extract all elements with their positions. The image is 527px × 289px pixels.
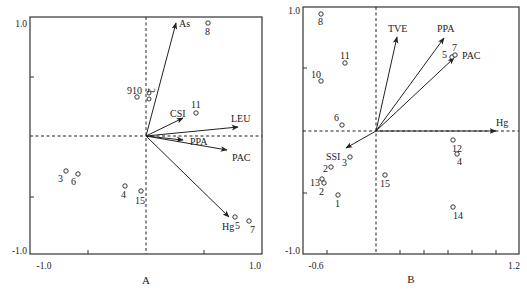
point-10-label: 10 <box>311 69 321 80</box>
panel-a-x-max-label: 1.0 <box>249 261 261 271</box>
point-15 <box>139 189 143 193</box>
point-4 <box>123 184 127 188</box>
point-4-label: 4 <box>121 189 126 200</box>
panel-b-y-min-label: -1.0 <box>285 246 300 256</box>
point-7-label: 7 <box>452 42 457 53</box>
point-15-label: 15 <box>135 195 145 206</box>
point-3 <box>348 155 352 159</box>
point-14 <box>451 205 455 209</box>
panel-b-x-min-label: -0.6 <box>308 261 323 271</box>
vector-leu-label: LEU <box>231 113 251 124</box>
vector-as-label: As <box>179 18 190 29</box>
point-6-label: 6 <box>334 112 339 123</box>
point-2b <box>322 181 326 185</box>
point-910-label: 910 <box>127 85 142 96</box>
point-12 <box>451 138 455 142</box>
vector-ssi-arrow <box>346 131 376 148</box>
point-2b-label: 2 <box>319 186 324 197</box>
point-2a <box>329 165 333 169</box>
panel-a-y-min-label: -1.0 <box>12 246 27 256</box>
point-4-label: 4 <box>457 156 462 167</box>
point-5-label: 5 <box>235 220 240 231</box>
vector-csi-label: CSI <box>170 108 186 119</box>
point-11 <box>343 61 347 65</box>
panel-a-label: A <box>142 274 150 286</box>
vector-ppa-label: PPA <box>437 23 455 34</box>
point-6 <box>76 172 80 176</box>
point-3-label: 3 <box>342 157 347 168</box>
panel-a: 1.0 -1.0 -1.0 1.0 A As CSI LEU PPA PAC H… <box>12 17 262 286</box>
vector-leu-arrow <box>146 127 238 136</box>
point-11-label: 11 <box>340 50 350 61</box>
point-8-label: 8 <box>205 26 210 37</box>
point-7-label: 7 <box>250 224 255 235</box>
point-2-label: 2 <box>146 88 157 93</box>
vector-pac-arrow <box>376 58 454 131</box>
vector-ssi-label: SSI <box>326 151 340 162</box>
point-8 <box>206 21 210 25</box>
point-1-label: 1 <box>335 198 340 209</box>
panel-b-x-max-label: 1.2 <box>508 261 520 271</box>
panel-b-y-max-label: 1.0 <box>288 6 300 16</box>
point-5 <box>233 215 237 219</box>
point-3-label: 3 <box>58 173 63 184</box>
vector-pac-label: PAC <box>232 152 251 163</box>
vector-hg-label: Hg <box>222 221 234 232</box>
point-6-label: 6 <box>71 176 76 187</box>
point-7 <box>247 219 251 223</box>
panel-b-label: B <box>407 273 414 285</box>
point-7 <box>453 53 457 57</box>
vector-hg-label: Hg <box>496 117 508 128</box>
panel-a-y-max-label: 1.0 <box>15 19 27 29</box>
point-2a-label: 2 <box>323 163 328 174</box>
vector-tve-label: TVE <box>388 23 407 34</box>
point-5-label: 5 <box>442 49 447 60</box>
vector-pac-label: PAC <box>462 50 481 61</box>
point-6 <box>340 123 344 127</box>
point-15 <box>383 173 387 177</box>
point-3 <box>64 169 68 173</box>
point-11 <box>194 111 198 115</box>
panel-a-x-min-label: -1.0 <box>36 261 51 271</box>
point-8-label: 8 <box>318 16 323 27</box>
point-2 <box>147 97 151 101</box>
vector-as-arrow <box>146 23 176 136</box>
point-11-label: 11 <box>191 99 201 110</box>
biplot-figure: 1.0 -1.0 -1.0 1.0 A As CSI LEU PPA PAC H… <box>0 0 527 289</box>
point-15-label: 15 <box>380 178 390 189</box>
panel-b: 1.0 -1.0 -0.6 1.2 B TVE PPA PAC Hg SSI 8… <box>285 6 520 285</box>
point-1 <box>336 193 340 197</box>
point-14-label: 14 <box>453 210 463 221</box>
